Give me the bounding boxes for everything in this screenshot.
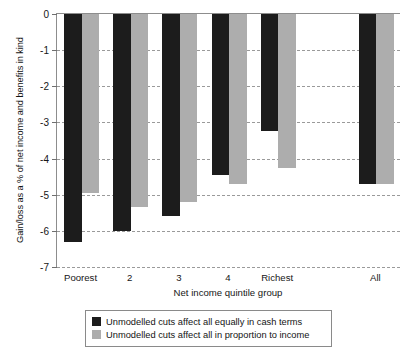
y-axis-tick <box>52 50 57 51</box>
bar <box>131 14 149 207</box>
y-axis-tick-label: -5 <box>40 189 49 200</box>
bar <box>376 14 394 184</box>
legend-label: Unmodelled cuts affect all in proportion… <box>106 330 309 340</box>
x-axis-tick-label: Richest <box>261 272 293 283</box>
gridline <box>57 231 400 232</box>
bar <box>180 14 198 202</box>
y-axis-tick <box>52 231 57 232</box>
chart-figure: Gain/loss as a % of net income and benef… <box>0 0 411 354</box>
y-axis-tick-label: -2 <box>40 81 49 92</box>
legend-item: Unmodelled cuts affect all equally in ca… <box>92 315 325 328</box>
x-axis-tick-label: 3 <box>176 272 181 283</box>
bar <box>212 14 230 175</box>
y-axis-tick <box>52 86 57 87</box>
y-axis-tick-label: -4 <box>40 153 49 164</box>
plot-area: 0-1-2-3-4-5-6-7 <box>56 14 400 267</box>
x-axis-tick-label: 2 <box>127 272 132 283</box>
bar <box>82 14 100 193</box>
y-axis-tick <box>52 267 57 268</box>
y-axis-title: Gain/loss as a % of net income and benef… <box>13 6 27 274</box>
y-axis-tick <box>52 122 57 123</box>
bar <box>229 14 247 184</box>
y-axis-tick <box>52 195 57 196</box>
legend-swatch-icon <box>92 317 101 326</box>
legend-swatch-icon <box>92 330 101 339</box>
y-axis-tick <box>52 14 57 15</box>
bar <box>359 14 377 184</box>
legend-item: Unmodelled cuts affect all in proportion… <box>92 328 325 341</box>
bar <box>113 14 131 231</box>
y-axis-tick <box>52 159 57 160</box>
gridline <box>57 267 400 268</box>
bar <box>261 14 279 131</box>
chart-legend: Unmodelled cuts affect all equally in ca… <box>85 310 332 347</box>
y-axis-tick-label: -3 <box>40 117 49 128</box>
y-axis-tick-label: 0 <box>43 9 49 20</box>
legend-label: Unmodelled cuts affect all equally in ca… <box>106 317 302 327</box>
y-axis-tick-label: -1 <box>40 45 49 56</box>
gridline <box>57 195 400 196</box>
x-axis-tick-label: Poorest <box>64 272 97 283</box>
x-axis-title: Net income quintile group <box>56 287 400 298</box>
bar <box>278 14 296 168</box>
y-axis-tick-label: -7 <box>40 262 49 273</box>
bar <box>64 14 82 242</box>
x-axis-tick-label: All <box>370 272 381 283</box>
x-axis-tick-label: 4 <box>225 272 230 283</box>
bar <box>162 14 180 216</box>
y-axis-tick-label: -6 <box>40 225 49 236</box>
